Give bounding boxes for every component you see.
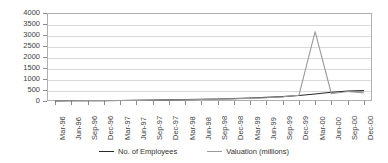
x-axis-tick-label: Dec-97 (172, 116, 180, 140)
x-axis-tick-label: Jun-99 (270, 117, 278, 140)
x-axis-tick-label: Jun-00 (335, 117, 343, 140)
legend-label: No. of Employees (118, 147, 177, 156)
y-axis-tick-label: 2000 (23, 53, 40, 61)
legend-line-icon (99, 151, 114, 152)
x-axis-tick-label: Mar-98 (189, 116, 197, 140)
x-axis-tick-label: Dec-96 (107, 116, 115, 140)
legend-line-icon (207, 151, 222, 152)
x-axis-tick-label: Sep-96 (91, 116, 99, 140)
series-line (55, 32, 364, 101)
series-layer (47, 13, 372, 101)
line-chart: 05001000150020002500300035004000 Mar-96J… (0, 0, 388, 163)
y-axis-tick-label: 4000 (23, 9, 40, 17)
x-axis-tick-label: Dec-98 (237, 116, 245, 140)
x-axis-tick-label: Dec-00 (367, 116, 375, 140)
y-axis-tick-label: 3500 (23, 20, 40, 28)
legend-item[interactable]: Valuation (millions) (207, 147, 289, 156)
x-axis-tick-label: Mar-99 (254, 116, 262, 140)
chart-legend: No. of EmployeesValuation (millions) (0, 143, 388, 159)
y-axis-tick-label: 2500 (23, 42, 40, 50)
x-axis-tick-label: Jun-97 (140, 117, 148, 140)
x-axis-tick-label: Sep-99 (286, 116, 294, 140)
x-axis-tick-label: Mar-00 (319, 116, 327, 140)
x-axis-tick-label: Sep-97 (156, 116, 164, 140)
y-axis-tick-label: 3000 (23, 31, 40, 39)
y-axis-tick-label: 1500 (23, 64, 40, 72)
legend-item[interactable]: No. of Employees (99, 147, 177, 156)
legend-label: Valuation (millions) (226, 147, 289, 156)
x-axis-tick-label: Jun-98 (205, 117, 213, 140)
x-axis-tick-label: Sep-98 (221, 116, 229, 140)
x-axis-tick-label: Jun-96 (75, 117, 83, 140)
x-axis-tick-label: Sep-00 (351, 116, 359, 140)
y-axis: 05001000150020002500300035004000 (0, 0, 45, 120)
y-axis-tick-label: 500 (27, 86, 40, 94)
x-axis-tick-label: Mar-97 (124, 116, 132, 140)
x-axis-labels: Mar-96Jun-96Sep-96Dec-96Mar-97Jun-97Sep-… (0, 104, 388, 144)
y-axis-tick-label: 1000 (23, 75, 40, 83)
x-axis-tick-label: Dec-99 (302, 116, 310, 140)
x-axis-tick-label: Mar-96 (59, 116, 67, 140)
